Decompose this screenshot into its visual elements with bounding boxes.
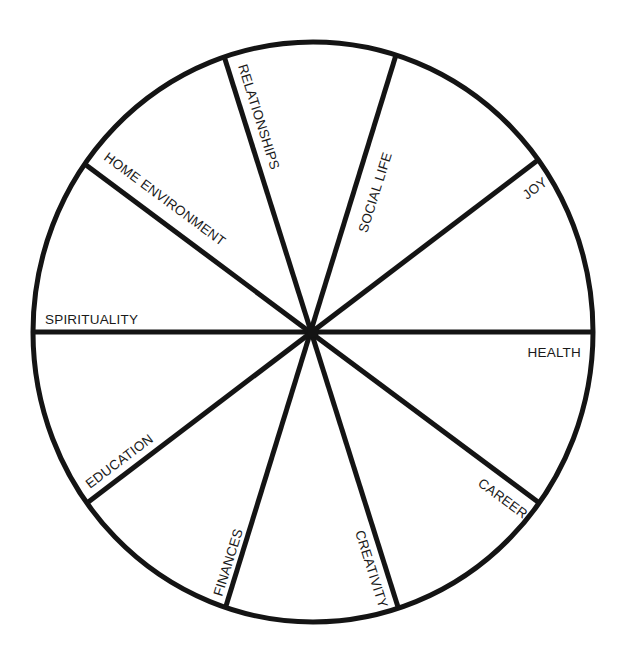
- label-spirituality: SPIRITUALITY: [45, 312, 138, 327]
- wheel-of-life-diagram: RELATIONSHIPS SOCIAL LIFE JOY HEALTH CAR…: [0, 0, 625, 656]
- wheel-hub: [307, 326, 319, 338]
- label-health: HEALTH: [528, 345, 581, 360]
